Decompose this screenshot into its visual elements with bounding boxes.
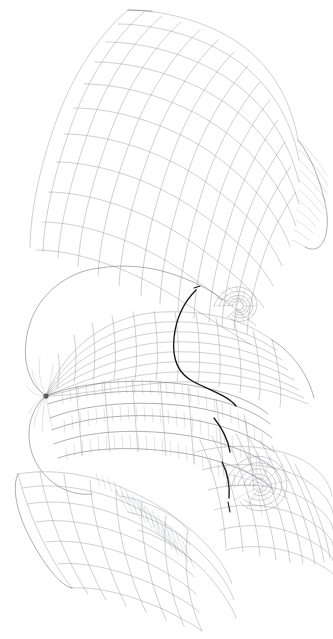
upper-fold-crease [100,266,222,300]
lower-right-u-isolines [196,446,333,574]
mid-sheet-mesh [46,311,308,407]
upper-vortex-mesh [214,286,257,324]
seam-main-s-curve [174,290,236,406]
top-edge [128,10,152,11]
flap-u-isolines [18,472,202,631]
lower-left-flap-mesh [15,472,202,631]
flap-outer-edge [15,474,72,588]
transition-u-isolines [120,496,236,618]
surface-wireframe-canvas [0,0,333,639]
upper-vortex-rings [214,287,257,321]
lower-transition-sheet [116,490,236,618]
left-boundary-edge [25,268,100,494]
flap-v-isolines [18,472,202,631]
upper-lobe-v-isolines [30,10,296,334]
wireframe-figure [0,0,333,639]
outer-silhouette-edges [100,10,314,398]
left-pinch-point [25,268,100,494]
upper-right-fan-mesh [292,140,328,249]
flap-fold-hatching [96,474,178,556]
upper-lobe-mesh [30,10,299,344]
lower-right-sheet-mesh [196,434,333,574]
mid-pleat-band [46,379,276,490]
upper-lobe-u-isolines [36,10,299,344]
lower-right-v-isolines [200,434,330,564]
transition-hatching [116,490,194,568]
